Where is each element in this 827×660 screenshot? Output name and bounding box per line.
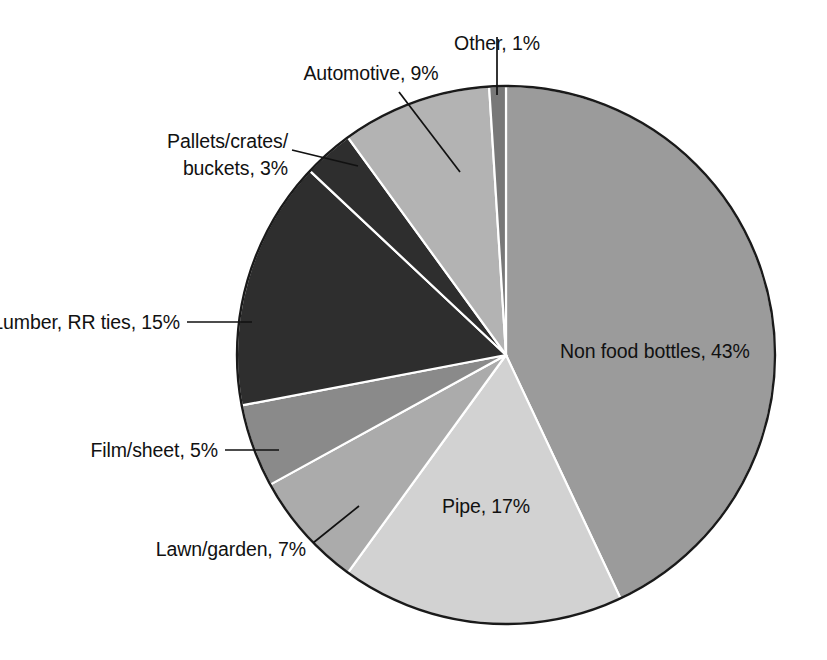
slice-label-non-food-bottles: Non food bottles, 43%	[560, 340, 750, 362]
slice-label-lumber: Lumber, RR ties, 15%	[0, 311, 180, 333]
slice-label-automotive: Automotive, 9%	[303, 62, 438, 84]
slice-label-pallets-line1: Pallets/crates/	[167, 130, 289, 152]
pie-chart-figure: Other, 1% Automotive, 9% Pallets/crates/…	[0, 0, 827, 660]
slice-label-film-sheet: Film/sheet, 5%	[90, 439, 218, 461]
slice-label-pallets-line2: buckets, 3%	[183, 157, 288, 179]
pie-chart-canvas: Other, 1% Automotive, 9% Pallets/crates/…	[0, 0, 827, 660]
slice-label-lawn-garden: Lawn/garden, 7%	[156, 538, 306, 560]
slice-label-other: Other, 1%	[454, 32, 540, 54]
slice-label-pipe: Pipe, 17%	[442, 495, 530, 517]
